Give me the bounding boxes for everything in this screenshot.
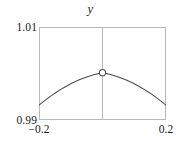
chart-figure: y 1.01 0.99 −0.2 0.2 xyxy=(0,0,181,145)
y-axis-max-tick-label: 1.01 xyxy=(1,21,37,33)
x-axis-min-tick-label: −0.2 xyxy=(28,123,49,136)
x-axis-max-tick-label: 0.2 xyxy=(159,123,174,136)
chart-title: y xyxy=(0,1,181,17)
plot-area xyxy=(39,27,166,120)
apex-marker xyxy=(99,70,105,76)
y-axis-max-tick: 1.01 xyxy=(0,21,37,33)
